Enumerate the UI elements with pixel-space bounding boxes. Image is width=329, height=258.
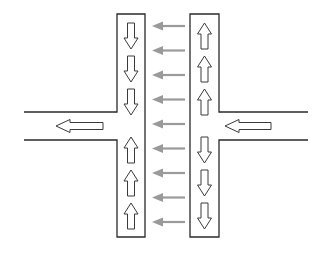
- gray-arrow-left-icon: [152, 120, 185, 129]
- road-arrows: [56, 120, 271, 133]
- gray-arrow-left-icon: [152, 22, 185, 31]
- arrow-down-icon: [198, 170, 212, 196]
- arrow-up-icon: [198, 89, 212, 115]
- gray-arrow-left-icon: [152, 218, 185, 227]
- arrow-down-icon: [198, 203, 212, 229]
- arrow-down-icon: [124, 56, 138, 82]
- left-column-arrows: [124, 23, 138, 229]
- gray-arrow-left-icon: [152, 95, 185, 104]
- arrow-down-icon: [124, 89, 138, 115]
- arrow-up-icon: [124, 170, 138, 196]
- arrow-up-icon: [198, 23, 212, 49]
- gray-arrow-left-icon: [152, 169, 185, 178]
- flow-diagram: [0, 0, 329, 258]
- arrow-down-icon: [124, 23, 138, 49]
- gray-arrow-left-icon: [152, 71, 185, 80]
- arrow-up-icon: [124, 137, 138, 163]
- gray-arrow-left-icon: [152, 144, 185, 153]
- arrow-up-icon: [198, 56, 212, 82]
- cross-flow-arrows: [152, 22, 185, 227]
- arrow-down-icon: [198, 137, 212, 163]
- gray-arrow-left-icon: [152, 193, 185, 202]
- gray-arrow-left-icon: [152, 46, 185, 55]
- left-road-arrow-left-icon: [56, 120, 103, 133]
- arrow-up-icon: [124, 203, 138, 229]
- right-column-arrows: [198, 23, 212, 229]
- right-road-arrow-left-icon: [225, 120, 271, 133]
